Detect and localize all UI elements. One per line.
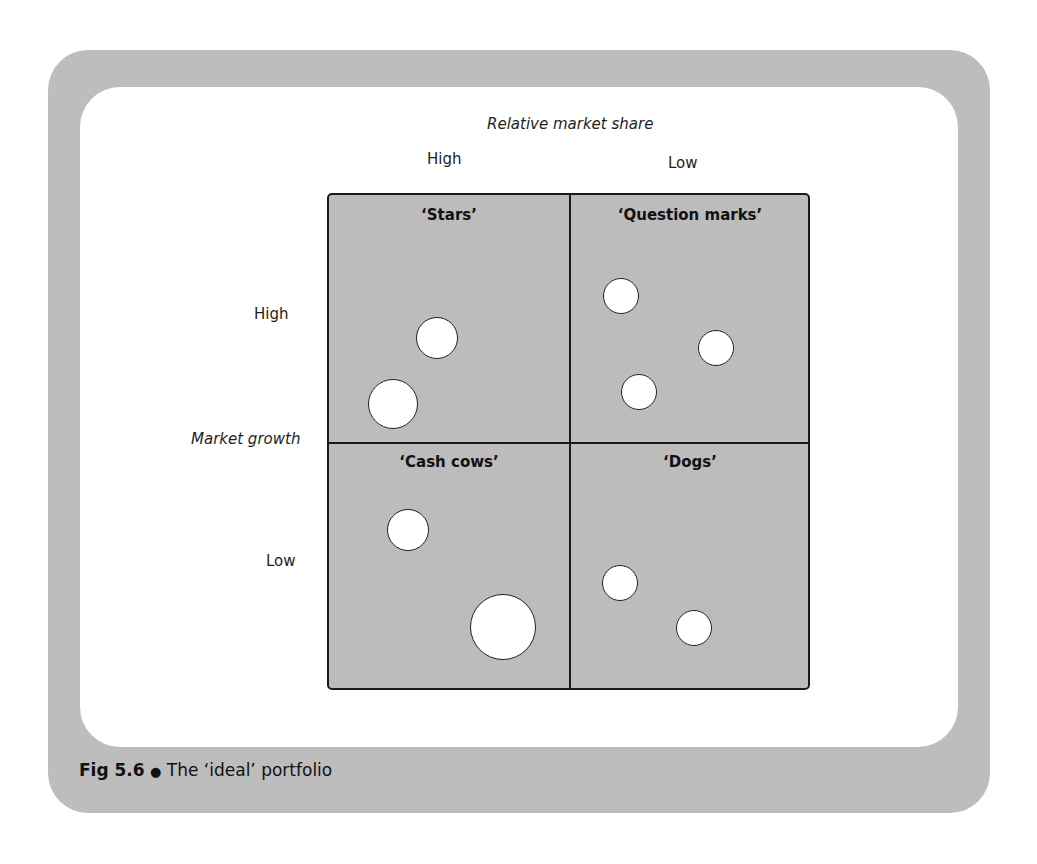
bcg-matrix: ‘Stars’ ‘Question marks’ ‘Cash cows’ ‘Do…	[327, 193, 810, 690]
caption-text: The ‘ideal’ portfolio	[167, 760, 332, 780]
bubble-dogs-1	[602, 565, 638, 601]
x-axis-high-label: High	[427, 150, 461, 168]
x-axis-low-label: Low	[668, 154, 698, 172]
caption-bullet-icon: ●	[150, 764, 161, 779]
y-axis-high-label: High	[254, 305, 288, 323]
horizontal-divider	[329, 442, 808, 444]
bubble-stars-1	[416, 317, 458, 359]
quadrant-label-stars: ‘Stars’	[421, 206, 477, 224]
quadrant-label-cash-cows: ‘Cash cows’	[399, 453, 498, 471]
quadrant-label-dogs: ‘Dogs’	[663, 453, 717, 471]
bubble-cash-cows-1	[387, 509, 429, 551]
bubble-question-marks-2	[698, 330, 734, 366]
bubble-cash-cows-2	[470, 594, 536, 660]
y-axis-low-label: Low	[266, 552, 296, 570]
bubble-question-marks-1	[603, 278, 639, 314]
bubble-question-marks-3	[621, 374, 657, 410]
bubble-dogs-2	[676, 610, 712, 646]
bubble-stars-2	[368, 379, 418, 429]
caption-number: Fig 5.6	[79, 760, 145, 780]
y-axis-title: Market growth	[191, 430, 300, 448]
figure-caption: Fig 5.6 ● The ‘ideal’ portfolio	[79, 760, 332, 780]
x-axis-title: Relative market share	[487, 115, 653, 133]
quadrant-label-question-marks: ‘Question marks’	[618, 206, 763, 224]
